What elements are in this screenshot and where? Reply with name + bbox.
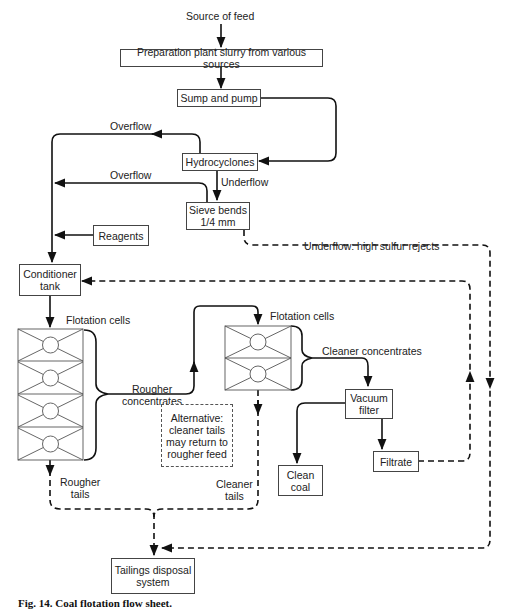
figure-caption: Fig. 14. Coal flotation flow sheet. bbox=[18, 597, 172, 609]
arrow-to-clean-coal bbox=[297, 403, 345, 463]
dashed-underflow-rejects bbox=[162, 230, 490, 548]
arrow-sieve-overflow bbox=[55, 183, 207, 202]
clean-coal-box: Clean coal bbox=[278, 465, 323, 496]
sump-and-pump-box: Sump and pump bbox=[177, 89, 261, 107]
dashed-rougher-tails bbox=[50, 460, 154, 555]
tailings-disposal-box: Tailings disposal system bbox=[111, 558, 195, 594]
source-of-feed-label: Source of feed bbox=[186, 10, 254, 22]
filtrate-box: Filtrate bbox=[373, 451, 419, 472]
overflow-label-1: Overflow bbox=[110, 120, 151, 132]
cleaner-brace bbox=[291, 326, 312, 390]
rougher-tails-label: Rougher tails bbox=[60, 476, 100, 500]
cleaner-concentrates-label: Cleaner concentrates bbox=[322, 345, 422, 357]
hydrocyclones-box: Hydrocyclones bbox=[182, 153, 258, 171]
underflow-rejects-label: Underflow: high sulfur rejects bbox=[304, 240, 439, 252]
cleaner-tails-label: Cleaner tails bbox=[216, 478, 253, 502]
rougher-flotation-cells-label: Flotation cells bbox=[66, 314, 130, 326]
arrow-cleaner-concentrates bbox=[312, 358, 368, 386]
conditioner-tank-box: Conditioner tank bbox=[19, 264, 81, 296]
overflow-label-2: Overflow bbox=[110, 169, 151, 181]
vacuum-filter-box: Vacuum filter bbox=[345, 389, 393, 419]
underflow-label: Underflow bbox=[221, 176, 268, 188]
rougher-brace bbox=[84, 330, 108, 460]
preparation-plant-box: Preparation plant slurry from various so… bbox=[120, 49, 323, 67]
cleaner-flotation-cells-label: Flotation cells bbox=[270, 310, 334, 322]
cleaner-flotation-cells bbox=[225, 326, 291, 390]
rougher-flotation-cells bbox=[18, 329, 83, 460]
alternative-note-box: Alternative: cleaner tails may return to… bbox=[161, 404, 233, 467]
reagents-box: Reagents bbox=[93, 225, 149, 246]
sieve-bends-box: Sieve bends 1/4 mm bbox=[186, 202, 250, 230]
arrow-sump-to-hydro bbox=[259, 98, 336, 161]
